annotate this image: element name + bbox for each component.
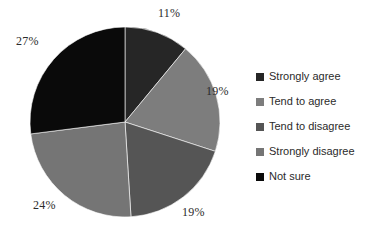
pie-slice-group <box>30 27 220 217</box>
legend-item[interactable]: Tend to agree <box>256 89 378 114</box>
legend-swatch-icon <box>256 173 264 181</box>
legend-item-label: Not sure <box>269 171 311 182</box>
slice-value-label-tend-to-disagree: 19% <box>182 205 205 220</box>
pie-slice <box>30 27 125 134</box>
legend-item-label: Tend to agree <box>269 96 336 107</box>
legend-swatch-icon <box>256 73 264 81</box>
legend-item-label: Strongly agree <box>269 71 341 82</box>
legend-item-label: Strongly disagree <box>269 146 355 157</box>
slice-value-label-tend-to-agree: 19% <box>206 84 229 99</box>
legend-item[interactable]: Strongly agree <box>256 64 378 89</box>
legend-item-label: Tend to disagree <box>269 121 350 132</box>
legend-swatch-icon <box>256 148 264 156</box>
slice-value-label-strongly-disagree: 24% <box>33 198 56 213</box>
legend-item[interactable]: Not sure <box>256 164 378 189</box>
legend-swatch-icon <box>256 123 264 131</box>
legend-swatch-icon <box>256 98 264 106</box>
pie-chart-figure: 11% 19% 19% 24% 27% Strongly agreeTend t… <box>0 0 378 233</box>
slice-value-label-strongly-agree: 11% <box>158 6 180 21</box>
slice-value-label-not-sure: 27% <box>16 34 39 49</box>
legend-item[interactable]: Tend to disagree <box>256 114 378 139</box>
chart-legend: Strongly agreeTend to agreeTend to disag… <box>256 64 378 189</box>
legend-item[interactable]: Strongly disagree <box>256 139 378 164</box>
